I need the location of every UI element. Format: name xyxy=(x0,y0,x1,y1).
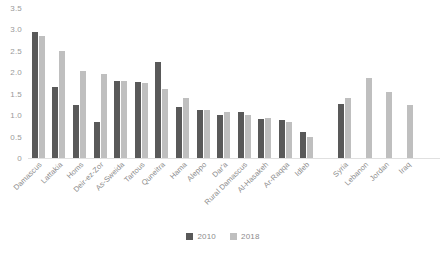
bar-2018[interactable] xyxy=(183,98,189,158)
bar-2010[interactable] xyxy=(94,122,100,158)
bar-group[interactable] xyxy=(255,8,276,158)
bar-2010[interactable] xyxy=(32,32,38,158)
bar-group[interactable] xyxy=(376,8,397,158)
bar-2018[interactable] xyxy=(142,83,148,158)
x-axis-label: Damascus xyxy=(12,160,44,192)
bar-group[interactable] xyxy=(172,8,193,158)
y-axis-tick: 1.5 xyxy=(10,89,22,98)
bar-group[interactable] xyxy=(296,8,317,158)
bar-2018[interactable] xyxy=(162,89,168,158)
bar-group[interactable] xyxy=(396,8,417,158)
x-axis-label: Lattakia xyxy=(39,160,65,186)
bar-2018[interactable] xyxy=(366,78,372,158)
bar-group[interactable] xyxy=(28,8,49,158)
bar-2018[interactable] xyxy=(101,74,107,158)
bar-group[interactable] xyxy=(275,8,296,158)
bar-2010[interactable] xyxy=(114,81,120,158)
bar-2018[interactable] xyxy=(345,98,351,158)
bar-2018[interactable] xyxy=(39,36,45,158)
bar-2010[interactable] xyxy=(135,82,141,158)
bar-group[interactable] xyxy=(152,8,173,158)
y-axis-tick: 2.0 xyxy=(10,68,22,77)
bar-2018[interactable] xyxy=(265,118,271,158)
bar-series-container xyxy=(28,8,440,158)
y-axis: 00.51.01.52.02.53.03.5 xyxy=(0,8,26,158)
bar-2018[interactable] xyxy=(286,122,292,158)
x-axis-category-labels: DamascusLattakiaHomsDeir-ez-ZorAs-Sweida… xyxy=(0,160,446,222)
x-axis-label: Jordan xyxy=(368,160,391,183)
bar-group[interactable] xyxy=(131,8,152,158)
bar-2018[interactable] xyxy=(121,81,127,158)
x-axis-label: Idleb xyxy=(293,160,311,178)
legend-item-2018[interactable]: 2018 xyxy=(230,232,260,241)
x-axis-label: Aleppo xyxy=(185,160,208,183)
bar-2010[interactable] xyxy=(197,110,203,158)
x-axis-label: Iraq xyxy=(396,160,412,176)
bar-group[interactable] xyxy=(355,8,376,158)
bar-2010[interactable] xyxy=(217,115,223,158)
y-axis-tick: 3.0 xyxy=(10,25,22,34)
bar-2010[interactable] xyxy=(73,105,79,158)
bar-2010[interactable] xyxy=(300,132,306,158)
x-axis-baseline xyxy=(28,158,440,159)
legend-item-2010[interactable]: 2010 xyxy=(186,232,216,241)
bar-2018[interactable] xyxy=(80,71,86,158)
bar-2010[interactable] xyxy=(338,104,344,158)
bar-2018[interactable] xyxy=(224,112,230,158)
bar-group[interactable] xyxy=(69,8,90,158)
legend-swatch xyxy=(230,233,237,240)
bar-2010[interactable] xyxy=(155,62,161,158)
legend-label: 2018 xyxy=(241,232,260,241)
bar-group[interactable] xyxy=(90,8,111,158)
bar-2018[interactable] xyxy=(59,51,65,158)
y-axis-tick: 3.5 xyxy=(10,4,22,13)
bar-2010[interactable] xyxy=(258,119,264,158)
bar-2018[interactable] xyxy=(407,105,413,158)
bar-2010[interactable] xyxy=(176,107,182,158)
plot-area xyxy=(28,8,440,158)
bar-group[interactable] xyxy=(234,8,255,158)
bar-group[interactable] xyxy=(110,8,131,158)
bar-2010[interactable] xyxy=(238,112,244,158)
bar-2018[interactable] xyxy=(307,137,313,158)
y-axis-tick: 0.5 xyxy=(10,132,22,141)
bar-2010[interactable] xyxy=(279,120,285,158)
bar-group[interactable] xyxy=(213,8,234,158)
bar-2018[interactable] xyxy=(386,92,392,158)
y-axis-tick: 1.0 xyxy=(10,111,22,120)
bar-group[interactable] xyxy=(193,8,214,158)
bar-2018[interactable] xyxy=(204,110,210,158)
bar-group[interactable] xyxy=(49,8,70,158)
bar-group[interactable] xyxy=(334,8,355,158)
bar-2010[interactable] xyxy=(52,87,58,158)
bar-2018[interactable] xyxy=(245,115,251,158)
chart-legend: 20102018 xyxy=(0,232,446,241)
bar-chart: 00.51.01.52.02.53.03.5 DamascusLattakiaH… xyxy=(0,0,446,255)
legend-label: 2010 xyxy=(197,232,216,241)
legend-swatch xyxy=(186,233,193,240)
y-axis-tick: 2.5 xyxy=(10,46,22,55)
